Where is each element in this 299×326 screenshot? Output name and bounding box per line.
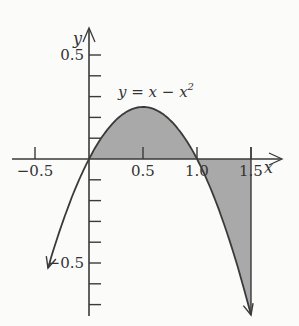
curve-equation-label: y = x − x2: [117, 81, 194, 101]
chart: −0.50.51.01.50.5−0.5 x y y = x − x2: [0, 0, 299, 326]
y-axis-label: y: [72, 29, 83, 48]
x-tick-label: 0.5: [131, 162, 155, 180]
x-tick-label: −0.5: [17, 162, 53, 180]
x-axis-label: x: [264, 158, 273, 177]
shaded-region-2: [197, 159, 251, 315]
y-tick-label: 0.5: [60, 46, 84, 64]
shaded-area: [89, 107, 251, 315]
